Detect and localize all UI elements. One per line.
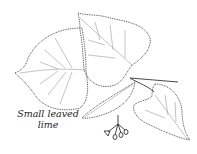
caption: Small leaved lime xyxy=(8,108,88,130)
illustration-canvas: Small leaved lime xyxy=(0,0,197,154)
caption-line-2: lime xyxy=(8,119,88,130)
caption-line-1: Small leaved xyxy=(8,108,88,119)
lime-leaf-drawing-icon xyxy=(0,0,197,154)
